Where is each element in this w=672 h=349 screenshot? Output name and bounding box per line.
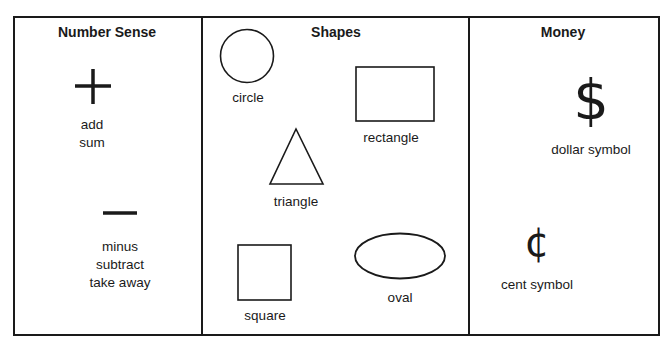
plus-icon xyxy=(74,68,112,106)
square-shape xyxy=(236,243,294,303)
column-divider-2 xyxy=(468,16,470,334)
triangle-label: triangle xyxy=(274,193,318,211)
shapes-heading: Shapes xyxy=(311,24,361,40)
minus-label: minus xyxy=(102,238,138,256)
sum-label: sum xyxy=(79,134,105,152)
number-sense-heading: Number Sense xyxy=(58,24,156,40)
circle-shape xyxy=(218,27,278,87)
square-label: square xyxy=(244,307,285,325)
oval-shape xyxy=(353,231,449,283)
oval-label: oval xyxy=(388,289,413,307)
rectangle-shape xyxy=(354,65,438,125)
dollar-symbol-label: dollar symbol xyxy=(551,141,631,159)
cent-icon: ¢ xyxy=(524,222,549,262)
rectangle-label: rectangle xyxy=(363,129,419,147)
triangle-shape xyxy=(267,126,327,188)
column-divider-1 xyxy=(201,16,203,334)
add-label: add xyxy=(81,116,104,134)
circle-label: circle xyxy=(232,89,264,107)
take-away-label: take away xyxy=(90,274,151,292)
dollar-icon: $ xyxy=(573,72,609,128)
money-heading: Money xyxy=(541,24,585,40)
cent-symbol-label: cent symbol xyxy=(501,276,573,294)
minus-icon xyxy=(102,210,138,216)
subtract-label: subtract xyxy=(96,256,144,274)
